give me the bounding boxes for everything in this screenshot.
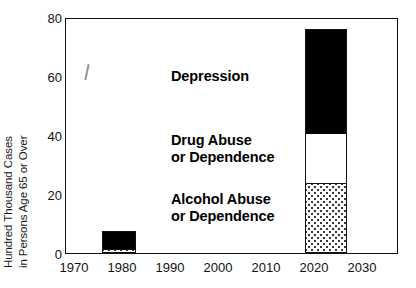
plot-area: Depression Drug Abuse or Dependence Alco… xyxy=(65,18,398,254)
y-axis-title-line-1: Hundred Thousand Cases xyxy=(2,136,14,268)
y-tick-60: 60 xyxy=(34,71,62,84)
y-axis-ticks: 80 60 40 20 0 xyxy=(32,0,62,288)
x-tick-1970: 1970 xyxy=(50,261,98,274)
bar-1980-segment-depression xyxy=(102,231,136,250)
bar-1980-segment-alcohol xyxy=(102,249,136,253)
y-tick-40: 40 xyxy=(34,130,62,143)
y-tick-20: 20 xyxy=(34,189,62,202)
y-tick-0: 0 xyxy=(34,248,62,261)
y-tick-80: 80 xyxy=(34,12,62,25)
x-tick-1980: 1980 xyxy=(98,261,146,274)
series-label-alcohol-abuse: Alcohol Abuse or Dependence xyxy=(171,191,274,225)
series-label-depression: Depression xyxy=(171,68,249,85)
bar-chart: Hundred Thousand Cases in Persons Age 65… xyxy=(0,0,416,288)
x-tick-2000: 2000 xyxy=(194,261,242,274)
bar-2020-segment-alcohol xyxy=(305,183,347,253)
bar-2020 xyxy=(305,29,347,253)
bar-2020-segment-drug xyxy=(305,134,347,184)
x-tick-2020: 2020 xyxy=(290,261,338,274)
bar-1980 xyxy=(102,231,136,253)
series-label-drug-abuse: Drug Abuse or Dependence xyxy=(171,132,274,166)
scan-artifact xyxy=(84,64,89,80)
x-tick-2010: 2010 xyxy=(242,261,290,274)
y-axis-title-line-2: in Persons Age 65 or Over xyxy=(17,136,29,268)
x-tick-2030: 2030 xyxy=(338,261,386,274)
bar-2020-segment-depression xyxy=(305,29,347,134)
x-tick-1990: 1990 xyxy=(146,261,194,274)
